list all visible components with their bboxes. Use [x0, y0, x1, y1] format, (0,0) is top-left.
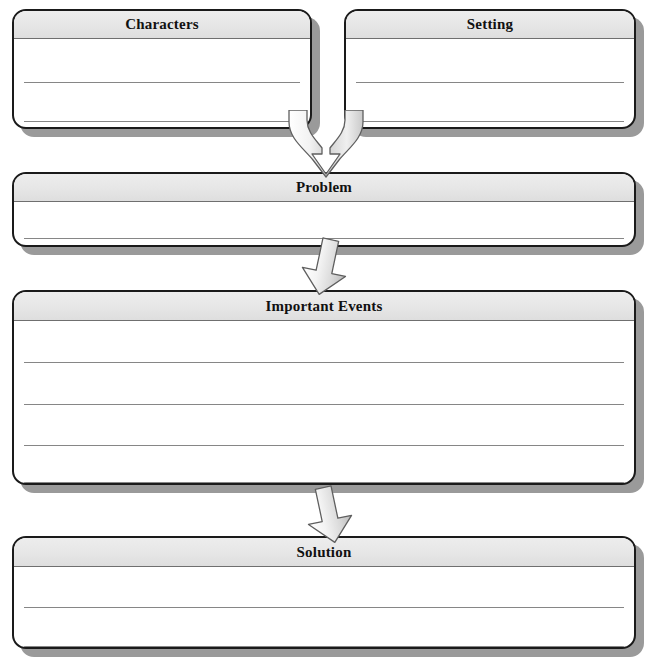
characters-writing-area[interactable] [14, 39, 310, 129]
merging-arrow-down-icon [285, 110, 367, 178]
writing-line [24, 404, 624, 405]
characters-box: Characters [12, 9, 312, 129]
writing-line [356, 82, 624, 83]
solution-box: Solution [12, 536, 636, 649]
writing-line [24, 82, 300, 83]
writing-line [24, 121, 300, 122]
setting-writing-area[interactable] [346, 39, 634, 129]
setting-box: Setting [344, 9, 636, 129]
writing-line [24, 362, 624, 363]
important-events-title: Important Events [266, 299, 383, 314]
problem-header: Problem [14, 174, 634, 202]
characters-title: Characters [125, 17, 199, 32]
writing-line [24, 607, 624, 608]
story-map-worksheet: Characters Setting [0, 0, 653, 667]
solution-writing-area[interactable] [14, 567, 634, 649]
writing-line [356, 121, 624, 122]
arrow-down-icon [295, 481, 364, 550]
writing-line [24, 646, 624, 647]
writing-line [24, 482, 624, 483]
problem-title: Problem [296, 180, 352, 195]
arrow-down-icon [291, 233, 360, 302]
setting-title: Setting [467, 17, 513, 32]
characters-header: Characters [14, 11, 310, 39]
solution-title: Solution [297, 545, 352, 560]
setting-header: Setting [346, 11, 634, 39]
important-events-writing-area[interactable] [14, 321, 634, 485]
writing-line [24, 445, 624, 446]
important-events-box: Important Events [12, 290, 636, 485]
problem-box: Problem [12, 172, 636, 247]
